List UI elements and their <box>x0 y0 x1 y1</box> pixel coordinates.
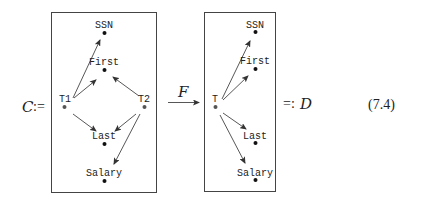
node-dot-t1 <box>63 105 67 109</box>
node-label-t2: T2 <box>138 94 150 105</box>
node-dot-t2 <box>143 105 147 109</box>
node-dot-first <box>103 68 107 72</box>
arrow-t-ssn <box>222 41 250 99</box>
node-label-first: First <box>89 57 119 68</box>
assign-left: := <box>33 99 45 114</box>
node-label-t: T <box>212 94 218 105</box>
arrow-t-first <box>223 76 248 100</box>
node-label-salary: Salary <box>86 168 122 179</box>
functor-label: F <box>177 83 189 101</box>
left-nodes: SSN First T1 T2 Last Salary <box>59 20 150 183</box>
node-dot-last <box>103 142 107 146</box>
node-label-ssn: SSN <box>246 20 264 31</box>
node-dot-salary <box>254 178 258 182</box>
node-dot-last <box>254 141 258 145</box>
node-label-last: Last <box>92 131 116 142</box>
arrow-t2-first <box>113 77 139 96</box>
node-dot-salary <box>103 179 107 183</box>
node-label-last: Last <box>243 131 267 142</box>
node-dot-first <box>254 67 258 71</box>
arrow-t-salary <box>220 115 245 163</box>
node-label-t1: T1 <box>59 94 71 105</box>
node-label-salary: Salary <box>237 168 273 179</box>
arrow-t1-ssn <box>73 40 100 98</box>
assign-right: =: <box>283 96 295 111</box>
node-dot-ssn <box>103 31 107 35</box>
rhs-symbol: D <box>299 95 312 113</box>
node-label-ssn: SSN <box>95 20 113 31</box>
equation-number: (7.4) <box>368 97 395 113</box>
arrow-t1-last <box>73 114 96 131</box>
node-label-first: First <box>240 56 270 67</box>
schema-diagram: C := SSN First T1 T2 Last Salary F SSN <box>0 0 432 202</box>
node-dot-t <box>214 105 218 109</box>
node-dot-ssn <box>254 30 258 34</box>
